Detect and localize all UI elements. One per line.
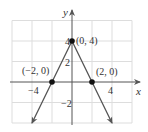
data-point bbox=[89, 79, 95, 85]
x-tick-label: 4 bbox=[108, 85, 113, 96]
x-axis-label: x bbox=[135, 85, 141, 97]
point-label: (0, 4) bbox=[76, 35, 98, 47]
y-tick-label: 2 bbox=[65, 57, 70, 68]
y-tick-label: −2 bbox=[61, 98, 72, 109]
data-point bbox=[49, 79, 55, 85]
function-graph: x y −4442−2 (−2, 0)(0, 4)(2, 0) bbox=[0, 0, 148, 132]
data-point bbox=[69, 38, 75, 44]
y-axis-label: y bbox=[62, 6, 68, 18]
x-tick-label: −4 bbox=[28, 85, 39, 96]
point-label: (2, 0) bbox=[96, 66, 118, 78]
point-label: (−2, 0) bbox=[22, 65, 49, 77]
